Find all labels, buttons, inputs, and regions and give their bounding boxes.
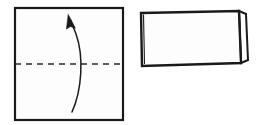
folding-diagram-figure (0, 0, 264, 125)
panel-before-fold (15, 8, 123, 120)
panel-after-fold (141, 11, 248, 66)
diagram-canvas (0, 0, 264, 125)
folded-rectangle-outline (141, 11, 241, 66)
